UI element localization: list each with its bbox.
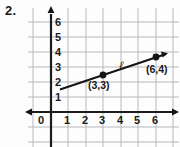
x-tick-4: 4 (117, 114, 124, 126)
x-tick-0: 0 (38, 114, 44, 126)
x-tick-3: 3 (99, 114, 105, 126)
x-tick-5: 5 (134, 114, 140, 126)
x-tick-6: 6 (152, 114, 158, 126)
coordinate-plane: 6 5 4 3 2 1 0 1 2 3 4 5 6 (0, 0, 180, 147)
x-tick-labels: 0 1 2 3 4 5 6 (38, 114, 158, 126)
point-3-3 (100, 72, 107, 79)
point-6-4 (153, 54, 160, 61)
y-tick-5: 5 (55, 31, 61, 43)
graph-svg: 6 5 4 3 2 1 0 1 2 3 4 5 6 (0, 0, 180, 147)
point-label-3-3: (3,3) (88, 79, 110, 91)
y-tick-3: 3 (55, 61, 61, 73)
y-tick-1: 1 (55, 91, 61, 103)
line-label-l: ℓ (119, 59, 124, 71)
figure-container: 2. (0, 0, 180, 147)
y-axis (48, 6, 55, 147)
x-tick-1: 1 (64, 114, 70, 126)
point-label-6-4: (6,4) (146, 63, 168, 75)
x-tick-2: 2 (82, 114, 88, 126)
y-tick-4: 4 (55, 46, 62, 58)
y-tick-2: 2 (55, 76, 61, 88)
y-tick-6: 6 (55, 16, 61, 28)
